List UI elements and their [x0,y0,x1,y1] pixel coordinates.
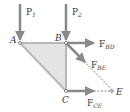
force-arrow-fbe [67,44,85,62]
label-p2: P2 [72,7,82,18]
node-b [65,42,68,45]
label-fbe: FBE [91,60,107,71]
truss-section [20,43,66,91]
label-a: A [9,35,17,45]
label-p1: P1 [26,7,36,18]
truss-diagram: A B C E P1 P2 FBD FBE FCE [0,0,130,112]
node-c [65,90,68,93]
label-c: C [62,95,69,105]
label-b: B [54,33,62,43]
label-e: E [115,87,123,97]
label-fce: FCE [87,98,103,109]
label-fbd: FBD [99,39,115,50]
node-e [111,90,114,93]
node-a [19,42,22,45]
